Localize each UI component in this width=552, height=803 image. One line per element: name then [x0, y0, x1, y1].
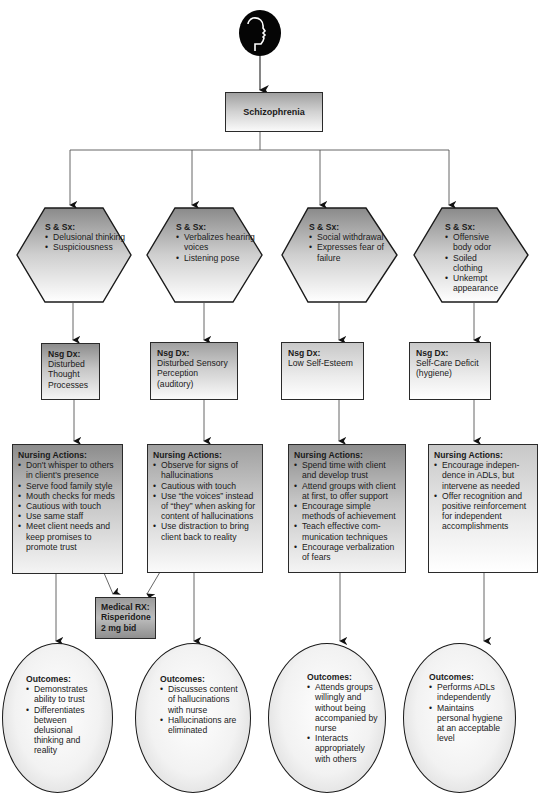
diagnosis-title: Nsg Dx:	[48, 349, 93, 359]
diagnosis-text: Low Self-Esteem	[288, 358, 353, 368]
outcomes-title: Outcomes:	[160, 674, 238, 684]
signs-symptoms-4: S & Sx: Offensive body odor Soiled cloth…	[445, 222, 507, 293]
list-item: Suspiciousness	[45, 242, 127, 252]
list-item: Attends groups willingly and without bei…	[307, 682, 379, 733]
medical-rx-title: Medical RX:	[101, 602, 150, 612]
list-item: Discusses content of hallucinations with…	[160, 684, 238, 715]
list-item: Encourage indepen-dence in ADLs, but int…	[434, 460, 532, 491]
medical-rx-dose: 2 mg bid	[101, 623, 150, 633]
actions-title: Nursing Actions:	[294, 450, 400, 460]
medical-rx-drug: Risperidone	[101, 612, 150, 622]
outcomes-oval-2: Outcomes: Discusses content of hallucina…	[135, 643, 251, 793]
nursing-diagnosis-4: Nsg Dx: Self-Care Deficit (hygiene)	[409, 342, 491, 400]
root-node-schizophrenia: Schizophrenia	[225, 92, 323, 132]
list-item: Don't whisper to others in client's pres…	[18, 460, 117, 480]
diagnosis-title: Nsg Dx:	[416, 348, 484, 358]
actions-title: Nursing Actions:	[18, 450, 117, 460]
nursing-diagnosis-2: Nsg Dx: Disturbed Sensory Perception (au…	[150, 342, 238, 400]
list-item: Mouth checks for meds	[18, 491, 117, 501]
nursing-actions-1: Nursing Actions: Don't whisper to others…	[12, 444, 123, 574]
diagnosis-text: Self-Care Deficit (hygiene)	[416, 358, 479, 378]
nursing-actions-4: Nursing Actions: Encourage indepen-dence…	[428, 444, 538, 573]
signs-symptoms-1: S & Sx: Delusional thinking Suspiciousne…	[45, 222, 127, 253]
list-item: Interacts appropriately with others	[307, 733, 379, 764]
list-item: Delusional thinking	[45, 232, 127, 242]
list-item: Performs ADLs independently	[429, 682, 509, 702]
diagnosis-title: Nsg Dx:	[157, 348, 231, 358]
list-item: Verbalizes hearing voices	[176, 232, 262, 252]
outcomes-oval-3: Outcomes: Attends groups willingly and w…	[268, 643, 386, 793]
list-item: Demonstrates ability to trust	[26, 684, 102, 704]
nursing-diagnosis-1: Nsg Dx: Disturbed Thought Processes	[41, 343, 100, 400]
list-item: Soiled clothing	[445, 253, 507, 273]
signs-title: S & Sx:	[45, 222, 127, 232]
list-item: Hallucinations are eliminated	[160, 715, 238, 735]
list-item: Encourage verbalization of fears	[294, 542, 400, 562]
list-item: Expresses fear of failure	[309, 242, 389, 262]
signs-symptoms-2: S & Sx: Verbalizes hearing voices Listen…	[176, 222, 262, 263]
signs-title: S & Sx:	[309, 222, 389, 232]
signs-symptoms-3: S & Sx: Social withdrawal Expresses fear…	[309, 222, 389, 263]
list-item: Use “the voices” instead of “they” when …	[153, 491, 257, 522]
list-item: Spend time with client and develop trust	[294, 460, 400, 480]
outcomes-title: Outcomes:	[26, 674, 102, 684]
list-item: Use same staff	[18, 511, 117, 521]
outcomes-title: Outcomes:	[307, 672, 379, 682]
diagnosis-title: Nsg Dx:	[288, 348, 357, 358]
list-item: Maintains personal hygiene at an accepta…	[429, 703, 509, 744]
list-item: Meet client needs and keep promises to p…	[18, 521, 117, 552]
outcomes-oval-4: Outcomes: Performs ADLs independently Ma…	[403, 643, 516, 793]
list-item: Observe for signs of hallucinations	[153, 460, 257, 480]
actions-title: Nursing Actions:	[153, 450, 257, 460]
list-item: Teach effective com-munication technique…	[294, 521, 400, 541]
list-item: Listening pose	[176, 253, 262, 263]
list-item: Cautious with touch	[153, 481, 257, 491]
list-item: Unkempt appearance	[445, 273, 507, 293]
diagnosis-text: Disturbed Thought Processes	[48, 359, 88, 389]
medical-rx-box: Medical RX: Risperidone 2 mg bid	[95, 597, 156, 639]
list-item: Offer recognition and positive reinforce…	[434, 491, 532, 532]
list-item: Serve food family style	[18, 481, 117, 491]
list-item: Social withdrawal	[309, 232, 389, 242]
list-item: Encourage simple methods of achievement	[294, 501, 400, 521]
list-item: Cautious with touch	[18, 501, 117, 511]
diagnosis-text: Disturbed Sensory Perception (auditory)	[157, 358, 228, 388]
signs-title: S & Sx:	[176, 222, 262, 232]
list-item: Use distraction to bring client back to …	[153, 521, 257, 541]
nursing-diagnosis-3: Nsg Dx: Low Self-Esteem	[281, 342, 364, 400]
outcomes-title: Outcomes:	[429, 672, 509, 682]
list-item: Offensive body odor	[445, 232, 507, 252]
nursing-actions-3: Nursing Actions: Spend time with client …	[288, 444, 406, 573]
actions-title: Nursing Actions:	[434, 450, 532, 460]
list-item: Differentiates between delusional thinki…	[26, 705, 102, 756]
signs-title: S & Sx:	[445, 222, 507, 232]
outcomes-oval-1: Outcomes: Demonstrates ability to trust …	[2, 643, 113, 793]
nursing-actions-2: Nursing Actions: Observe for signs of ha…	[147, 444, 263, 573]
human-head-profile-icon	[239, 10, 281, 56]
root-label: Schizophrenia	[243, 107, 305, 117]
list-item: Attend groups with client at first, to o…	[294, 481, 400, 501]
